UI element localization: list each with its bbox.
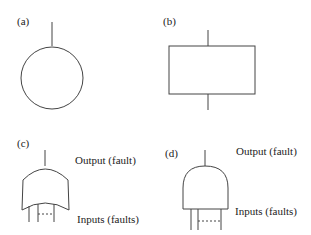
- panel-b-label: (b): [163, 15, 176, 28]
- panel-a: (a): [17, 15, 83, 109]
- basic-event-circle: [21, 47, 83, 109]
- panel-d: (d) Output (fault) Inputs (faults): [165, 145, 297, 230]
- panel-a-label: (a): [17, 15, 30, 28]
- or-output-label: Output (fault): [75, 154, 136, 167]
- panel-c: (c) Output (fault) Inputs (faults): [17, 137, 139, 226]
- and-gate-shape: [183, 166, 228, 209]
- panel-c-label: (c): [17, 137, 30, 150]
- or-inputs-label: Inputs (faults): [77, 213, 139, 226]
- fault-tree-symbols-diagram: (a) (b) (c) Output (fault) Inputs (fault…: [0, 0, 311, 235]
- and-output-label: Output (fault): [236, 145, 297, 158]
- panel-b: (b): [163, 15, 255, 110]
- or-gate-shape: [22, 169, 69, 210]
- panel-d-label: (d): [165, 147, 178, 160]
- intermediate-event-rectangle: [169, 46, 255, 94]
- and-inputs-label: Inputs (faults): [235, 205, 297, 218]
